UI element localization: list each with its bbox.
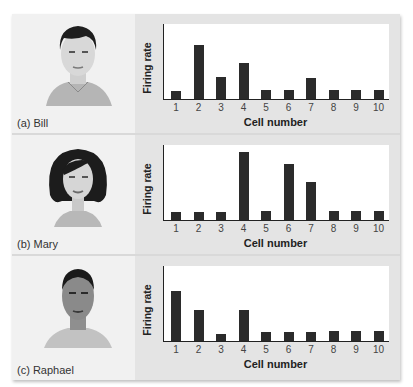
x-axis-label: Cell number [163, 358, 388, 370]
bar-cell-5 [261, 90, 271, 99]
x-tick-label: 5 [256, 223, 276, 234]
face-panel: (b) Mary [12, 135, 135, 254]
x-tick-label: 10 [369, 344, 389, 355]
bar-cell-4 [239, 310, 249, 342]
x-tick-label: 2 [189, 102, 209, 113]
bar-cell-5 [261, 211, 271, 220]
bar-cell-1 [171, 91, 181, 99]
plot-area [163, 145, 389, 221]
bar-cell-1 [171, 291, 181, 341]
bar-cell-9 [351, 90, 361, 99]
caption: (c) Raphael [17, 364, 74, 376]
caption: (a) Bill [17, 117, 48, 129]
bar-cell-3 [216, 212, 226, 220]
bar-cell-6 [284, 164, 294, 220]
y-axis-label: Firing rate [141, 154, 153, 224]
plot-area [163, 24, 389, 100]
x-tick-label: 6 [279, 223, 299, 234]
x-axis-label: Cell number [163, 116, 388, 128]
x-tick-label: 10 [369, 102, 389, 113]
x-tick-label: 9 [346, 102, 366, 113]
bar-cell-7 [306, 332, 316, 341]
x-tick-label: 3 [211, 344, 231, 355]
x-tick-label: 3 [211, 102, 231, 113]
x-tick-label: 8 [324, 344, 344, 355]
x-tick-label: 1 [166, 102, 186, 113]
bar-cell-1 [171, 212, 181, 220]
x-tick-label: 2 [189, 344, 209, 355]
x-tick-label: 5 [256, 344, 276, 355]
bar-cell-4 [239, 63, 249, 99]
bar-cell-8 [329, 211, 339, 220]
x-tick-label: 9 [346, 223, 366, 234]
x-tick-label: 4 [234, 344, 254, 355]
caption: (b) Mary [17, 238, 58, 250]
x-tick-label: 1 [166, 223, 186, 234]
y-axis-label: Firing rate [141, 33, 153, 103]
bar-cell-4 [239, 152, 249, 220]
bar-cell-7 [306, 78, 316, 99]
chart-bill: Firing rate 12345678910 Cell number [135, 14, 400, 133]
x-tick-label: 1 [166, 344, 186, 355]
x-tick-label: 6 [279, 344, 299, 355]
x-tick-label: 10 [369, 223, 389, 234]
face-panel: (c) Raphael [12, 256, 135, 380]
bar-cell-7 [306, 182, 316, 220]
chart-raphael: Firing rate 12345678910 Cell number [135, 256, 400, 380]
x-tick-label: 6 [279, 102, 299, 113]
male-face-illustration [40, 262, 116, 348]
bar-cell-9 [351, 331, 361, 341]
x-tick-label: 4 [234, 102, 254, 113]
x-tick-label: 7 [301, 344, 321, 355]
x-tick-label: 2 [189, 223, 209, 234]
plot-area [163, 266, 389, 342]
bar-cell-10 [374, 211, 384, 220]
panel-mary: (b) Mary Firing rate 12345678910 Cell nu… [12, 135, 400, 254]
bar-cell-10 [374, 331, 384, 341]
x-tick-label: 7 [301, 223, 321, 234]
bar-cell-3 [216, 334, 226, 341]
bar-cell-9 [351, 211, 361, 220]
x-tick-label: 8 [324, 223, 344, 234]
bar-cell-2 [194, 310, 204, 342]
panel-raphael: (c) Raphael Firing rate 12345678910 Cell… [12, 256, 400, 380]
chart-mary: Firing rate 12345678910 Cell number [135, 135, 400, 254]
figure: (a) Bill Firing rate 12345678910 Cell nu… [12, 14, 400, 380]
male-face-illustration [40, 20, 116, 106]
x-tick-label: 8 [324, 102, 344, 113]
female-face-illustration [40, 141, 116, 227]
bar-cell-3 [216, 77, 226, 100]
bar-cell-5 [261, 332, 271, 341]
x-tick-label: 5 [256, 102, 276, 113]
bar-cell-6 [284, 332, 294, 341]
x-tick-label: 3 [211, 223, 231, 234]
x-tick-label: 7 [301, 102, 321, 113]
face-panel: (a) Bill [12, 14, 135, 133]
x-tick-label: 9 [346, 344, 366, 355]
x-axis-label: Cell number [163, 237, 388, 249]
bar-cell-6 [284, 90, 294, 99]
bar-cell-10 [374, 90, 384, 99]
bar-cell-8 [329, 331, 339, 341]
panel-bill: (a) Bill Firing rate 12345678910 Cell nu… [12, 14, 400, 133]
x-tick-label: 4 [234, 223, 254, 234]
bar-cell-2 [194, 45, 204, 99]
bar-cell-8 [329, 90, 339, 99]
y-axis-label: Firing rate [141, 275, 153, 345]
bar-cell-2 [194, 212, 204, 220]
